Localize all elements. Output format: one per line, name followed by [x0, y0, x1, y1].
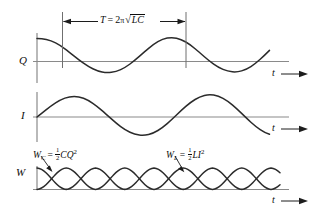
time-arrow-i-head [299, 126, 308, 132]
time-arrow-i-group [281, 126, 308, 132]
time-label-q: t [272, 68, 275, 78]
wc-equals: = [47, 150, 52, 160]
axis-label-q: Q [19, 55, 27, 66]
wl-exponent: 2 [201, 148, 204, 155]
wc-symbol: W [33, 150, 41, 160]
wc-subscript: C [41, 154, 46, 161]
period-equals: = [108, 14, 114, 25]
wl-fraction: 12 [188, 147, 192, 161]
axis-label-w: W [16, 167, 25, 178]
wl-subscript: L [174, 154, 178, 161]
curve-i [37, 95, 270, 136]
axis-q-group [33, 33, 289, 83]
wl-frac-denominator: 2 [188, 155, 192, 162]
axis-label-i: I [21, 110, 25, 121]
period-label: T=2π√LC [100, 14, 145, 25]
wc-factor: CQ [60, 150, 73, 160]
capacitor-energy-label: WC=12CQ2 [33, 147, 77, 161]
leader-wl-head [178, 166, 184, 172]
time-arrow-q-head [299, 71, 308, 77]
period-arrow-left [63, 19, 71, 24]
figure-canvas [0, 0, 319, 212]
lc-oscillation-figure: Q I W t t t T=2π√LC WC=12CQ2 WL=12LI2 [0, 0, 319, 212]
time-label-w: t [272, 195, 275, 205]
axis-i-group [33, 92, 289, 142]
time-arrow-q-group [281, 71, 308, 77]
period-arrow-right [178, 19, 186, 24]
radical-sign: √LC [124, 14, 145, 25]
wl-equals: = [180, 150, 185, 160]
wl-symbol: W [166, 150, 174, 160]
leader-wc-head [46, 166, 52, 172]
time-arrow-w-head [299, 198, 308, 204]
radicand-lc: LC [130, 14, 145, 25]
curve-q [37, 38, 270, 73]
time-arrow-w-group [281, 198, 308, 204]
wc-exponent: 2 [74, 148, 77, 155]
wl-factor: LI [193, 150, 201, 160]
period-symbol: T [100, 14, 106, 25]
time-label-i: t [272, 123, 275, 133]
inductor-energy-label: WL=12LI2 [166, 147, 204, 161]
